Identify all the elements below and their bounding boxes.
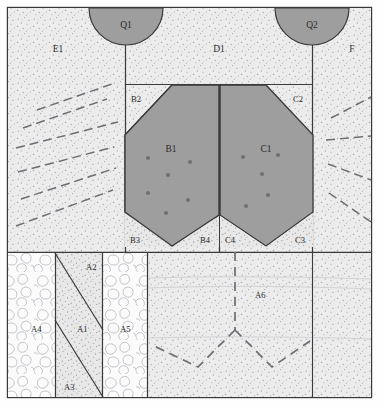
unit-label-A1: A1 <box>77 324 88 334</box>
unit-label-Q2: Q2 <box>306 20 318 30</box>
unit-label-B1: B1 <box>165 144 176 154</box>
unit-label-A3: A3 <box>64 382 75 392</box>
unit-label-B4: B4 <box>200 235 211 245</box>
unit-label-D1: D1 <box>213 44 225 54</box>
unit-label-A6: A6 <box>255 290 266 300</box>
unit-label-C2: C2 <box>293 94 303 104</box>
unit-label-B3: B3 <box>130 235 140 245</box>
unit-label-C4: C4 <box>225 235 236 245</box>
unit-label-C1: C1 <box>260 144 271 154</box>
unit-label-A4: A4 <box>31 324 42 334</box>
unit-label-F: F <box>349 44 354 54</box>
unit-label-E1: E1 <box>53 44 64 54</box>
unit-label-A2: A2 <box>86 262 97 272</box>
unit-label-A5: A5 <box>120 324 131 334</box>
unit-label-C3: C3 <box>295 235 305 245</box>
unit-label-Q1: Q1 <box>120 20 132 30</box>
figure-canvas: Q1 Q2 E1 D1 F B2 C2 B1 C1 B3 B4 C4 C3 A4… <box>0 0 385 409</box>
unit-label-B2: B2 <box>131 94 141 104</box>
section-diagram-svg: Q1 Q2 E1 D1 F B2 C2 B1 C1 B3 B4 C4 C3 A4… <box>0 0 385 409</box>
